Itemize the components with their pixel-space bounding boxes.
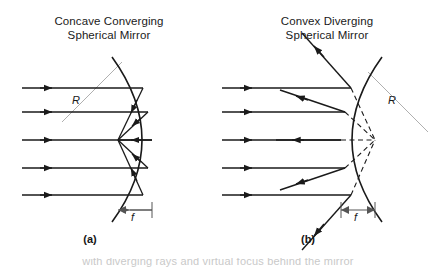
panel-a-caption: (a) xyxy=(0,233,180,245)
clipped-bottom-text-content: with diverging rays and virtual focus be… xyxy=(82,258,353,267)
clipped-bottom-text: with diverging rays and virtual focus be… xyxy=(0,258,436,271)
convex-mirror-diagram xyxy=(218,0,436,271)
radius-line xyxy=(368,72,428,132)
incoming-ray-arrowheads xyxy=(240,88,252,195)
panel-b-caption: (b) xyxy=(218,233,398,245)
incoming-rays xyxy=(22,88,152,195)
figure-root: Concave Converging Spherical Mirror xyxy=(0,0,436,271)
concave-mirror-diagram xyxy=(0,0,218,271)
reflected-ray-arrowheads xyxy=(292,46,324,236)
radius-label-a: R xyxy=(72,94,80,106)
focal-label-a: f xyxy=(131,211,134,223)
incoming-rays xyxy=(222,88,351,195)
panel-convex: Convex Diverging Spherical Mirror xyxy=(218,0,436,271)
focal-label-b: f xyxy=(354,211,357,223)
panel-concave: Concave Converging Spherical Mirror xyxy=(0,0,218,271)
reflected-rays xyxy=(276,33,351,250)
radius-line xyxy=(62,62,122,122)
incoming-ray-arrowheads xyxy=(40,88,52,195)
radius-label-b: R xyxy=(388,94,396,106)
